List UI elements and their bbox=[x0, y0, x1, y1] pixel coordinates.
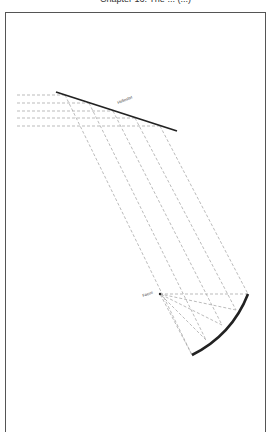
flat-mirror bbox=[56, 92, 177, 131]
parabolic-dish bbox=[192, 294, 248, 355]
incoming-rays bbox=[17, 95, 160, 126]
focus-label: Focus bbox=[142, 290, 154, 298]
flat-mirror-label: Heliostat bbox=[117, 94, 134, 105]
focal-point bbox=[159, 293, 161, 295]
reflected-rays bbox=[65, 95, 248, 355]
focused-rays bbox=[160, 294, 248, 355]
